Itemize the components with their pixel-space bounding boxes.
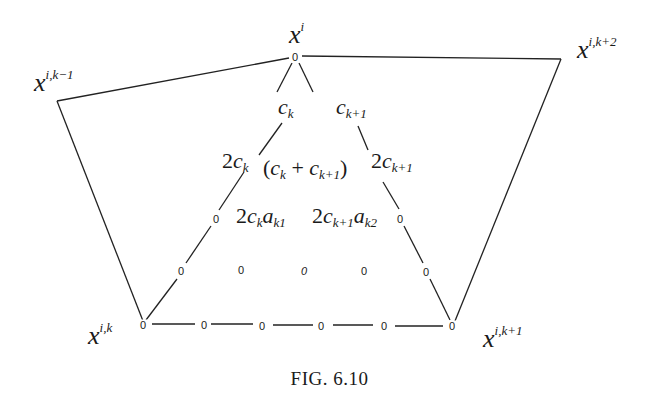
- figure-caption: FIG. 6.10: [0, 368, 659, 390]
- coef-sub: k+1: [346, 106, 367, 121]
- coef-base: c: [382, 148, 392, 173]
- zero-bottom-3: 0: [316, 321, 326, 332]
- coef-sub: k2: [365, 215, 377, 230]
- zero-bottom-right: 0: [447, 321, 457, 332]
- zero-left-edge-4: 0: [176, 266, 186, 277]
- coef-base: a: [354, 203, 365, 228]
- edge-right-side-seg2: [358, 126, 368, 150]
- coef-prefix: 2: [312, 203, 323, 228]
- vertex-label-bottom-right: xi,k+1: [483, 326, 522, 352]
- vertex-label-outer-right: xi,k+2: [577, 37, 616, 63]
- vertex-top-base: x: [289, 20, 301, 49]
- vertex-outer-left-base: x: [34, 68, 46, 97]
- vertex-bottom-right-base: x: [483, 324, 495, 353]
- zero-left-edge-3: 0: [211, 214, 221, 225]
- coef-sub: k+1: [319, 167, 340, 182]
- coef-base: c: [336, 94, 346, 119]
- coef-base: c: [270, 155, 280, 180]
- edge-outer-left-to-bottom-left: [57, 101, 143, 321]
- edge-right-side-seg1: [299, 63, 313, 92]
- zero-bottom-left: 0: [138, 320, 148, 331]
- edge-left-side-seg5: [146, 279, 177, 320]
- coef-base: a: [263, 203, 274, 228]
- vertex-outer-left-sup: i,k−1: [46, 67, 74, 82]
- vertex-bottom-left-base: x: [88, 321, 100, 350]
- coef-base: c: [233, 148, 243, 173]
- coef-base: c: [247, 203, 257, 228]
- coef-sub: k: [243, 160, 249, 175]
- coef-sub: k: [288, 106, 294, 121]
- zero-right-edge-4: 0: [421, 267, 431, 278]
- zero-bottom-1: 0: [199, 320, 209, 331]
- vertex-label-outer-left: xi,k−1: [34, 70, 73, 96]
- edge-top-to-outer-left: [57, 58, 289, 101]
- edge-top-to-outer-right: [302, 56, 561, 59]
- zero-interior-4-b: 0: [299, 266, 309, 277]
- vertex-outer-right-sup: i,k+2: [589, 34, 617, 49]
- coef-base: c: [309, 155, 319, 180]
- coef-plus: +: [286, 155, 309, 180]
- coef-right-edge-2: 2ck+1: [371, 150, 413, 172]
- coef-prefix: 2: [222, 148, 233, 173]
- coef-center-3-left: 2ckak1: [236, 205, 286, 227]
- zero-interior-4-c: 0: [359, 266, 369, 277]
- edge-right-side-seg5: [430, 279, 450, 320]
- vertex-top-sup: i: [301, 19, 305, 34]
- edge-right-side-seg3: [383, 182, 399, 209]
- coef-prefix: 2: [371, 148, 382, 173]
- coef-center-3-right: 2ck+1ak2: [312, 205, 377, 227]
- coef-right-edge-1: ck+1: [336, 96, 367, 118]
- coef-sub: k+1: [333, 215, 354, 230]
- coef-left-edge-1: ck: [278, 96, 294, 118]
- zero-top: 0: [290, 52, 300, 63]
- coef-prefix: 2: [236, 203, 247, 228]
- coef-sub: k+1: [392, 160, 413, 175]
- coef-left-edge-2: 2ck: [222, 150, 249, 172]
- edge-right-side-seg4: [404, 226, 423, 263]
- zero-bottom-2: 0: [257, 321, 267, 332]
- zero-bottom-4: 0: [379, 321, 389, 332]
- vertex-bottom-left-sup: i,k: [100, 320, 113, 335]
- coef-close-paren: ): [340, 155, 347, 180]
- coef-base: c: [323, 203, 333, 228]
- vertex-label-top: xi: [289, 22, 304, 48]
- vertex-outer-right-base: x: [577, 35, 589, 64]
- coef-center-2: (ck + ck+1): [263, 157, 347, 179]
- edge-left-side-seg2: [259, 123, 282, 155]
- zero-interior-4-a: 0: [236, 265, 246, 276]
- edge-left-side-seg1: [277, 63, 292, 92]
- edge-outer-right-to-bottom-right: [455, 59, 561, 321]
- zero-right-edge-3: 0: [395, 214, 405, 225]
- coef-sub: k1: [274, 215, 286, 230]
- edge-left-side-seg4: [186, 226, 211, 263]
- coef-base: c: [278, 94, 288, 119]
- vertex-label-bottom-left: xi,k: [88, 323, 112, 349]
- vertex-bottom-right-sup: i,k+1: [495, 323, 523, 338]
